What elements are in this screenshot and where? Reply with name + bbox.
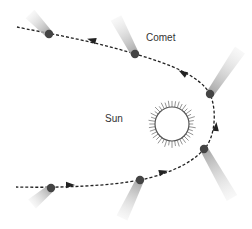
sun-ray — [188, 129, 193, 131]
sun-ray — [159, 106, 162, 110]
comet-nucleus — [131, 50, 139, 58]
comet-tail — [199, 146, 237, 201]
comet-top-left — [26, 10, 54, 38]
sun-ray — [169, 141, 170, 146]
sun-ray — [182, 138, 186, 143]
comet-nucleus — [200, 145, 208, 153]
sun-ray — [177, 102, 179, 108]
sun-ray — [187, 114, 191, 116]
sun-ray — [149, 127, 155, 128]
sun-ray — [189, 127, 196, 128]
sun-icon — [149, 101, 196, 148]
comet-nucleus — [206, 90, 214, 98]
sun-ray — [186, 110, 192, 114]
sun-ray — [151, 117, 156, 119]
comet-orbit-diagram: Sun Comet — [0, 0, 252, 229]
comet-right-lower — [199, 145, 237, 201]
sun-ray — [182, 105, 186, 111]
comet-tail — [205, 47, 245, 98]
sun-ray — [189, 121, 194, 122]
sun-ray — [158, 138, 162, 144]
sun-disc — [155, 107, 189, 141]
sun-ray — [162, 139, 164, 143]
sun-ray — [149, 120, 156, 121]
sun-ray — [155, 111, 158, 114]
sun-ray — [187, 132, 193, 135]
sun-ray — [168, 101, 169, 107]
sun-ray — [175, 141, 176, 146]
sun-ray — [180, 104, 182, 109]
arrow-bottom-icon — [66, 182, 75, 188]
comets-group — [26, 10, 245, 221]
sun-ray — [151, 113, 157, 116]
sun-ray — [153, 134, 158, 138]
sun-ray — [165, 140, 167, 147]
comet-right-upper — [205, 47, 245, 99]
sun-ray — [155, 107, 160, 112]
comet-label: Comet — [146, 32, 176, 43]
direction-arrows — [66, 36, 220, 189]
sun-ray — [156, 136, 160, 140]
sun-ray — [180, 139, 183, 144]
sun-ray — [161, 103, 164, 109]
sun-ray — [184, 136, 189, 141]
comet-nucleus — [47, 184, 55, 192]
sun-ray — [186, 134, 191, 137]
sun-label: Sun — [105, 113, 123, 124]
sun-ray — [175, 101, 176, 107]
sun-ray — [165, 103, 167, 108]
sun-ray — [152, 132, 157, 135]
comet-nucleus — [45, 30, 53, 38]
sun-ray — [177, 140, 179, 146]
sun-ray — [188, 117, 195, 119]
comet-nucleus — [136, 176, 144, 184]
sun-ray — [184, 109, 187, 112]
arrow-lower-right-icon — [158, 168, 168, 177]
sun-ray — [150, 129, 156, 131]
